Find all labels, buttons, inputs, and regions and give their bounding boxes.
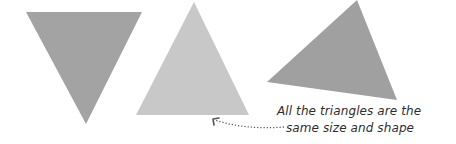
diagram-canvas: All the triangles are the same size and … bbox=[0, 0, 456, 144]
upright-triangle bbox=[136, 2, 249, 115]
caption-line-1: All the triangles are the bbox=[277, 104, 421, 118]
inverted-triangle bbox=[26, 12, 142, 124]
rotated-triangle bbox=[267, 0, 397, 100]
dotted-arrow-line bbox=[215, 120, 284, 128]
arrow-head-icon bbox=[213, 118, 219, 125]
caption-line-2: same size and shape bbox=[286, 121, 414, 135]
